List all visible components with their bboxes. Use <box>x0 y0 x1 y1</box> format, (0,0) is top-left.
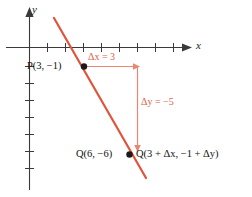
point-Q-marker <box>126 151 132 157</box>
point-P-label: P(3, −1) <box>27 61 62 72</box>
delta-x-arrow <box>84 63 140 70</box>
diagram-svg <box>0 0 252 197</box>
delta-x-label: Δx = 3 <box>88 52 115 62</box>
x-axis-arrowhead <box>182 43 192 51</box>
delta-y-arrow <box>134 67 141 153</box>
point-Q-label: Q(6, −6) <box>76 149 112 160</box>
point-P-marker <box>81 63 87 69</box>
point-Q-general-label: Q(3 + Δx, −1 + Δy) <box>136 149 219 160</box>
delta-y-label: Δy = −5 <box>141 97 174 107</box>
coordinate-diagram: y x P(3, −1) Q(6, −6) Q(3 + Δx, −1 + Δy)… <box>0 0 252 197</box>
y-axis-label: y <box>32 4 37 15</box>
x-axis-label: x <box>196 40 201 51</box>
